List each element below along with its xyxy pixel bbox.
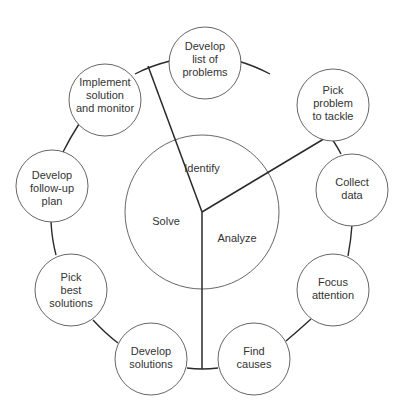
svg-text:data: data	[341, 189, 363, 201]
step-collect-data: Collect data	[316, 154, 388, 226]
step-focus-attention: Focus attention	[297, 254, 369, 326]
connector-collect-data-to-focus	[348, 225, 352, 256]
hub-label-identify: Identify	[184, 162, 220, 174]
step-implement-solution-and-monitor: Implement solution and monitor	[69, 64, 141, 136]
svg-text:Implement: Implement	[79, 76, 130, 88]
step-develop-list-of-problems: Develop list of problems	[169, 27, 241, 99]
step-pick-best-solutions: Pick best solutions	[35, 254, 107, 326]
step-develop-solutions: Develop solutions	[115, 323, 187, 395]
svg-text:problems: problems	[182, 66, 228, 78]
svg-text:problem: problem	[313, 97, 353, 109]
svg-text:follow-up: follow-up	[30, 182, 74, 194]
connector-pick-best-to-follow-up	[51, 222, 56, 255]
connector-focus-to-find-causes	[286, 319, 311, 341]
connector-develop-list-to-pick-problem	[238, 61, 270, 74]
svg-text:Pick: Pick	[61, 271, 82, 283]
connector-follow-up-to-implement	[63, 124, 79, 152]
connector-implement-to-develop-list	[135, 61, 170, 74]
svg-text:plan: plan	[42, 195, 63, 207]
hub-label-solve: Solve	[152, 215, 180, 227]
svg-text:to tackle: to tackle	[313, 110, 354, 122]
svg-text:solutions: solutions	[49, 297, 93, 309]
svg-text:attention: attention	[312, 289, 354, 301]
hub-label-analyze: Analyze	[217, 232, 256, 244]
svg-text:causes: causes	[237, 358, 272, 370]
step-develop-follow-up-plan: Develop follow-up plan	[16, 150, 88, 222]
svg-text:solutions: solutions	[129, 358, 173, 370]
divider-identify-analyze	[202, 134, 332, 212]
svg-text:Find: Find	[243, 345, 264, 357]
svg-text:Collect: Collect	[335, 176, 369, 188]
step-find-causes: Find causes	[218, 323, 290, 395]
svg-text:Pick: Pick	[323, 84, 344, 96]
svg-text:solution: solution	[86, 89, 124, 101]
svg-text:Develop: Develop	[185, 40, 225, 52]
step-pick-problem-to-tackle: Pick problem to tackle	[297, 69, 369, 141]
connector-develop-solutions-to-pick-best	[93, 320, 118, 343]
problem-solving-cycle-diagram: Identify Solve Analyze Develop list of p…	[0, 0, 402, 412]
svg-text:and monitor: and monitor	[76, 102, 134, 114]
svg-text:Focus: Focus	[318, 276, 348, 288]
svg-text:Develop: Develop	[131, 345, 171, 357]
svg-text:Develop: Develop	[32, 169, 72, 181]
svg-text:list of: list of	[192, 53, 219, 65]
svg-text:best: best	[61, 284, 82, 296]
